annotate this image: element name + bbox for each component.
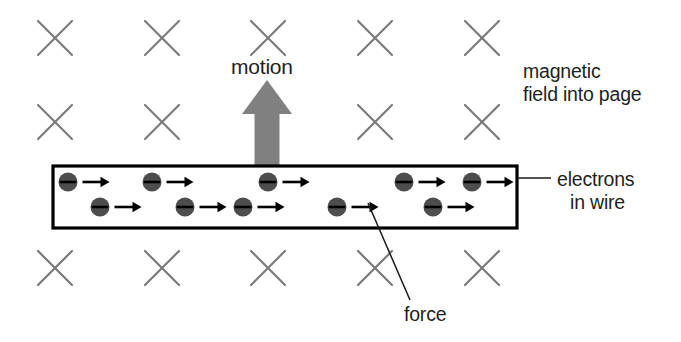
- magnetic-field-cross-icon: [38, 21, 72, 55]
- magnetic-field-cross-icon: [251, 251, 285, 285]
- magnetic-field-cross-icon: [358, 105, 392, 139]
- magnetic-field-label-line1: magnetic: [523, 60, 601, 82]
- diagram-canvas: motion magneticfield into page electrons…: [0, 0, 681, 342]
- magnetic-field-cross-icon: [358, 251, 392, 285]
- motion-arrow-icon: [242, 80, 292, 170]
- magnetic-field-label: magneticfield into page: [523, 60, 641, 106]
- magnetic-field-cross-icon: [465, 105, 499, 139]
- magnetic-field-cross-icon: [251, 21, 285, 55]
- magnetic-field-cross-icon: [38, 251, 72, 285]
- motion-label: motion: [231, 55, 293, 80]
- magnetic-field-cross-icon: [38, 105, 72, 139]
- magnetic-field-cross-icon: [465, 21, 499, 55]
- electrons-label-line2: in wire: [557, 191, 634, 214]
- magnetic-field-label-line2: field into page: [523, 83, 641, 105]
- motion-arrow-group: [242, 80, 292, 170]
- wire-rectangle-group: [53, 166, 517, 228]
- electrons-in-wire-label: electronsin wire: [557, 168, 634, 214]
- magnetic-field-cross-icon: [145, 21, 179, 55]
- magnetic-field-cross-icon: [145, 105, 179, 139]
- wire-outline: [53, 166, 517, 228]
- magnetic-field-cross-icon: [358, 21, 392, 55]
- force-label: force: [404, 303, 446, 326]
- magnetic-field-cross-icon: [145, 251, 179, 285]
- magnetic-field-cross-icon: [465, 251, 499, 285]
- electrons-label-line1: electrons: [557, 168, 634, 190]
